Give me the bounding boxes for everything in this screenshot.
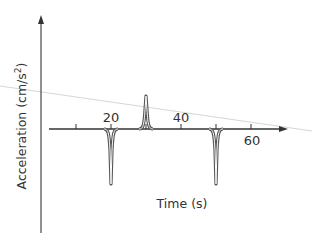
tick-label-40: 40 (173, 110, 190, 125)
x-axis-title: Time (s) (156, 196, 208, 211)
y-axis (38, 15, 44, 233)
y-axis-title-main: Acceleration (cm/s (14, 73, 29, 189)
y-axis-arrow-icon (38, 15, 44, 24)
y-axis-title-end: ) (14, 63, 29, 68)
x-axis: 20 40 60 (49, 110, 288, 148)
stray-diagonal-line (0, 86, 312, 131)
tick-label-20: 20 (103, 110, 120, 125)
acceleration-chart: 20 40 60 Time (s) Acceleration (cm/s2) (0, 0, 312, 242)
y-axis-title: Acceleration (cm/s2) (13, 63, 29, 190)
svg-text:Acceleration (cm/s2): Acceleration (cm/s2) (13, 63, 29, 190)
tick-label-60: 60 (244, 133, 261, 148)
